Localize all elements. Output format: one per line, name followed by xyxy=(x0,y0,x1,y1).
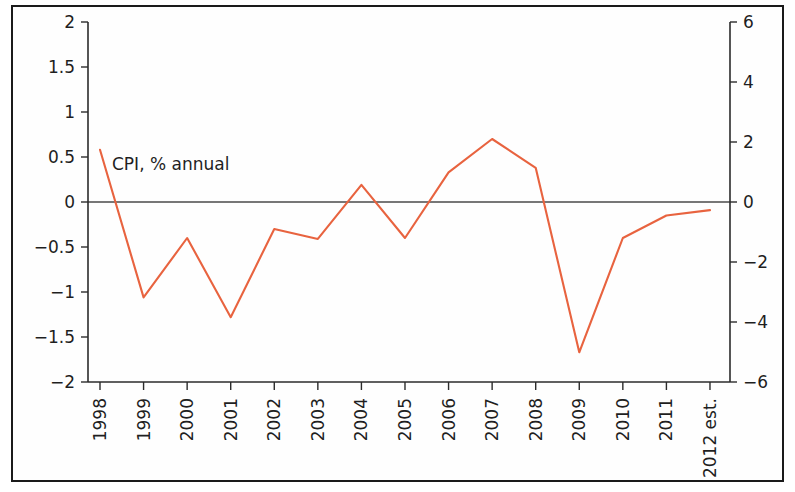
right-axis-group: 6420−2−4−6 xyxy=(730,12,768,392)
left-axis-tick-label: 0 xyxy=(64,192,75,212)
x-axis-tick-label: 2006 xyxy=(439,398,459,441)
x-axis-tick-label: 1999 xyxy=(134,398,154,441)
right-axis-tick-label: 4 xyxy=(743,72,754,92)
left-axis-group: 21.510.50−0.5−1−1.5−2 xyxy=(34,12,88,392)
x-axis-tick-label: 2001 xyxy=(221,398,241,441)
left-axis-tick-label: −0.5 xyxy=(34,237,75,257)
x-axis-tick-label: 1998 xyxy=(90,398,110,441)
series-annotation-label: CPI, % annual xyxy=(112,154,229,174)
x-axis-tick-label: 2004 xyxy=(351,398,371,441)
figure-container: 21.510.50−0.5−1−1.5−2 6420−2−4−6 1998199… xyxy=(0,0,795,492)
x-axis-tick-label: 2010 xyxy=(613,398,633,441)
x-axis-tick-label: 2000 xyxy=(177,398,197,441)
x-axis-tick-label: 2005 xyxy=(395,398,415,441)
x-axis-tick-label: 2009 xyxy=(569,398,589,441)
left-axis-tick-label: 2 xyxy=(64,12,75,32)
left-axis-tick-label: −2 xyxy=(50,372,75,392)
x-axis-tick-label: 2011 xyxy=(656,398,676,441)
right-axis-tick-label: −2 xyxy=(743,252,768,272)
left-axis-tick-label: 0.5 xyxy=(48,147,75,167)
right-axis-tick-label: 0 xyxy=(743,192,754,212)
x-axis-tick-label: 2012 est. xyxy=(700,398,720,478)
right-axis-tick-label: 2 xyxy=(743,132,754,152)
x-axis-tick-label: 2008 xyxy=(526,398,546,441)
right-axis-tick-label: −6 xyxy=(743,372,768,392)
x-axis-tick-label: 2002 xyxy=(264,398,284,441)
x-axis-tick-label: 2007 xyxy=(482,398,502,441)
line-chart-plot: 21.510.50−0.5−1−1.5−2 6420−2−4−6 1998199… xyxy=(0,0,795,492)
left-axis-tick-label: 1 xyxy=(64,102,75,122)
left-axis-tick-label: 1.5 xyxy=(48,57,75,77)
left-axis-tick-label: −1 xyxy=(50,282,75,302)
x-axis-group: 1998199920002001200220032004200520062007… xyxy=(88,382,730,478)
left-axis-tick-label: −1.5 xyxy=(34,327,75,347)
right-axis-tick-label: −4 xyxy=(743,312,768,332)
annotation-group: CPI, % annual xyxy=(112,154,229,174)
x-axis-tick-label: 2003 xyxy=(308,398,328,441)
right-axis-tick-label: 6 xyxy=(743,12,754,32)
